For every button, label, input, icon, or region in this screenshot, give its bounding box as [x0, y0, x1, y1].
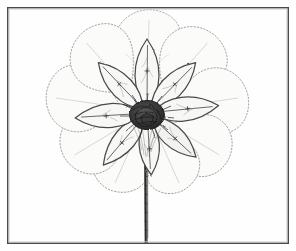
flower-drawing-svg	[0, 0, 296, 251]
botanical-sketch-canvas: Flower with rosette of serrated leaves p…	[0, 0, 296, 251]
